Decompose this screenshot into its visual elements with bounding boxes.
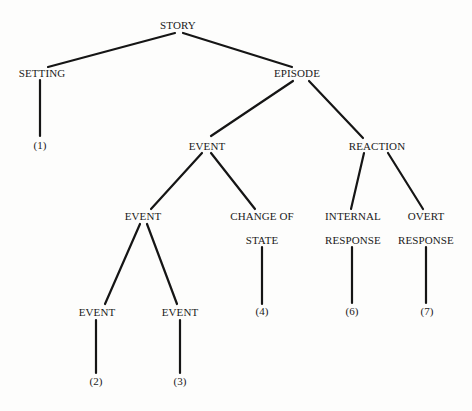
story-grammar-tree-diagram: STORYSETTING(1)EPISODEEVENTREACTIONEVENT… [0, 0, 472, 411]
edge-reaction-to-internal_response [351, 153, 364, 209]
node-change-leaf: (4) [255, 305, 268, 317]
node-setting-leaf: (1) [33, 139, 46, 151]
node-event-c: EVENT [79, 306, 116, 318]
node-event-d: EVENT [162, 306, 199, 318]
edge-episode-to-event_a [211, 81, 293, 136]
node-overt-1: OVERT [408, 210, 445, 222]
node-change-of-state-1: CHANGE OF [230, 210, 294, 222]
edge-event_a-to-event_b [151, 153, 202, 209]
node-event-d-leaf: (3) [173, 375, 186, 387]
node-internal-leaf: (6) [345, 305, 358, 317]
tree-edges [0, 0, 472, 411]
node-event-c-leaf: (2) [89, 375, 102, 387]
node-internal-1: INTERNAL [325, 210, 381, 222]
edge-event_b-to-event_d [147, 224, 177, 304]
node-overt-leaf: (7) [420, 305, 433, 317]
edge-episode-to-reaction [309, 81, 363, 138]
node-internal-2: RESPONSE [325, 234, 381, 246]
node-overt-2: RESPONSE [398, 234, 454, 246]
node-episode: EPISODE [274, 67, 320, 79]
node-setting: SETTING [19, 67, 66, 79]
node-reaction: REACTION [349, 140, 405, 152]
node-change-of-state-2: STATE [246, 234, 279, 246]
node-event-b: EVENT [125, 210, 162, 222]
edge-reaction-to-overt_response [388, 153, 423, 209]
node-event-a: EVENT [189, 140, 226, 152]
node-story: STORY [160, 19, 196, 31]
edge-event_b-to-event_c [105, 224, 140, 304]
edge-story-to-episode [183, 33, 292, 67]
edge-story-to-setting [48, 33, 175, 67]
edge-event_a-to-change_of_state [211, 153, 255, 209]
